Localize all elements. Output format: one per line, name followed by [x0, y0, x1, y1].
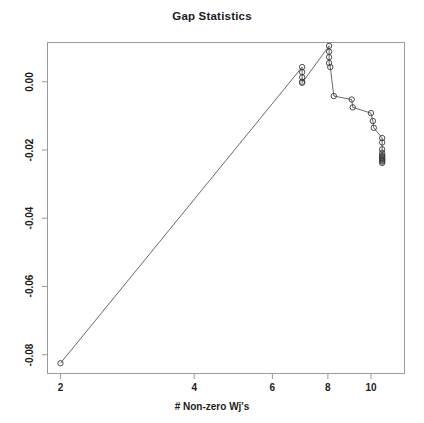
y-tick-label: -0.04 [23, 207, 34, 230]
data-marker-group [58, 43, 385, 366]
x-axis-label: # Non-zero Wj's [0, 401, 424, 412]
y-tick-label: -0.02 [23, 139, 34, 162]
y-axis-ticks [42, 82, 48, 355]
x-tick-label: 6 [270, 382, 276, 393]
y-tick-label: 0.00 [23, 72, 34, 91]
chart-container: Gap Statistics 246810 0.00-0.02-0.04-0.0… [0, 0, 424, 423]
x-tick-label: 4 [191, 382, 197, 393]
x-axis-ticks [60, 374, 370, 380]
plot-border [48, 43, 405, 374]
y-tick-label: -0.08 [23, 343, 34, 366]
x-tick-label: 10 [365, 382, 376, 393]
axis-frame [48, 43, 405, 374]
plot-area [0, 0, 424, 423]
x-tick-label: 8 [325, 382, 331, 393]
y-tick-label: -0.06 [23, 275, 34, 298]
x-tick-label: 2 [58, 382, 64, 393]
